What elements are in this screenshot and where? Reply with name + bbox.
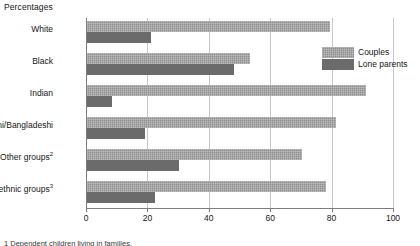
x-tick-label-40: 40 — [204, 213, 213, 223]
bar-lone-parents — [87, 192, 155, 203]
bar-couples — [87, 85, 366, 96]
category-label: Pakistani/Bangladeshi — [0, 120, 53, 130]
chart-legend: Couples Lone parents — [322, 47, 418, 73]
x-tick-label-100: 100 — [386, 213, 400, 223]
x-tick-label-0: 0 — [84, 213, 89, 223]
chart-footnote: 1 Dependent children living in families. — [4, 239, 132, 246]
x-tick-label-80: 80 — [327, 213, 336, 223]
bar-lone-parents — [87, 96, 112, 107]
bar-couples — [87, 53, 250, 64]
legend-item-lone-parents: Lone parents — [322, 59, 418, 70]
chart-category-row: Indian — [86, 85, 393, 117]
bar-couples — [87, 149, 302, 160]
legend-swatch-couples — [322, 47, 354, 58]
x-axis-line — [86, 208, 394, 209]
bar-couples — [87, 117, 336, 128]
x-tick-0 — [86, 208, 87, 212]
chart-category-row: Pakistani/Bangladeshi — [86, 117, 393, 149]
bar-couples — [87, 181, 326, 192]
x-tick-40 — [209, 208, 210, 212]
legend-label-lone-parents: Lone parents — [358, 59, 408, 70]
bar-lone-parents — [87, 160, 179, 171]
chart-category-row: Other groups2 — [86, 149, 393, 181]
category-label: Indian — [30, 88, 53, 98]
chart-container: Percentages WhiteBlackIndianPakistani/Ba… — [0, 0, 420, 246]
bar-lone-parents — [87, 128, 145, 139]
x-tick-80 — [332, 208, 333, 212]
category-label: Other groups2 — [0, 152, 53, 162]
legend-swatch-lone-parents — [322, 59, 354, 70]
legend-label-couples: Couples — [358, 47, 389, 58]
bar-lone-parents — [87, 64, 234, 75]
x-tick-60 — [270, 208, 271, 212]
chart-unit-title: Percentages — [4, 2, 53, 12]
x-tick-100 — [393, 208, 394, 212]
x-tick-20 — [147, 208, 148, 212]
x-tick-label-60: 60 — [265, 213, 274, 223]
category-label: All ethnic groups3 — [0, 184, 53, 194]
legend-item-couples: Couples — [322, 47, 418, 58]
bar-couples — [87, 21, 330, 32]
bar-lone-parents — [87, 32, 151, 43]
category-label: Black — [32, 56, 53, 66]
x-tick-label-20: 20 — [143, 213, 152, 223]
category-label: White — [31, 24, 53, 34]
